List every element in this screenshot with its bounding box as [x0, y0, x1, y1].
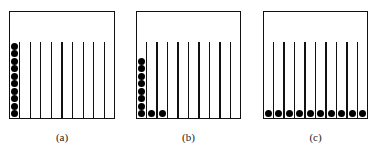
- particle-dot: [159, 110, 166, 117]
- particle-dot: [11, 58, 18, 65]
- particle-dot: [138, 65, 145, 72]
- column-divider: [30, 42, 31, 118]
- particle-dot: [11, 73, 18, 80]
- column-divider: [83, 42, 84, 118]
- particle-dot: [11, 43, 18, 50]
- particle-dot: [138, 88, 145, 95]
- particle-dot: [11, 95, 18, 102]
- particle-dot: [265, 110, 272, 117]
- column-divider: [40, 42, 41, 118]
- particle-dot: [286, 110, 293, 117]
- column-divider: [19, 42, 20, 118]
- column-divider: [219, 42, 220, 118]
- particle-dot: [138, 95, 145, 102]
- column-divider: [230, 42, 231, 118]
- column-divider: [198, 42, 199, 118]
- particle-dot: [11, 50, 18, 57]
- panel-label-c: (c): [296, 131, 336, 143]
- column-divider: [167, 42, 168, 118]
- column-divider: [294, 42, 295, 118]
- column-divider: [283, 42, 284, 118]
- column-divider: [346, 42, 347, 118]
- particle-dot: [11, 103, 18, 110]
- column-divider: [156, 42, 157, 118]
- particle-dot: [307, 110, 314, 117]
- column-divider: [51, 42, 52, 118]
- particle-dot: [138, 58, 145, 65]
- column-divider: [146, 42, 147, 118]
- column-divider: [104, 42, 105, 118]
- particle-dot: [11, 110, 18, 117]
- particle-dot: [138, 110, 145, 117]
- column-divider: [93, 42, 94, 118]
- column-divider: [61, 42, 62, 118]
- column-divider: [336, 42, 337, 118]
- column-divider: [357, 42, 358, 118]
- column-divider: [304, 42, 305, 118]
- column-divider: [273, 42, 274, 118]
- panel-label-a: (a): [42, 131, 82, 143]
- column-divider: [72, 42, 73, 118]
- particle-dot: [138, 103, 145, 110]
- column-divider: [177, 42, 178, 118]
- particle-dot: [349, 110, 356, 117]
- particle-dot: [138, 80, 145, 87]
- panel-label-b: (b): [169, 131, 209, 143]
- column-divider: [315, 42, 316, 118]
- column-divider: [325, 42, 326, 118]
- particle-dot: [11, 88, 18, 95]
- column-divider: [188, 42, 189, 118]
- particle-dot: [328, 110, 335, 117]
- particle-dot: [138, 73, 145, 80]
- particle-dot: [11, 80, 18, 87]
- column-divider: [209, 42, 210, 118]
- particle-dot: [11, 65, 18, 72]
